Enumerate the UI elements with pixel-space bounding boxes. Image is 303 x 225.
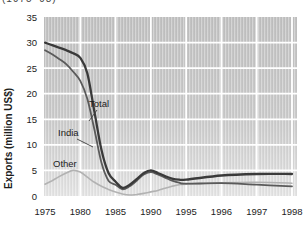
annotation-label-other: Other	[53, 158, 77, 169]
y-tick-label: 20	[26, 88, 37, 99]
y-axis-tick-labels: 05101520253035	[26, 12, 37, 202]
y-tick-label: 10	[26, 139, 37, 150]
exports-line-chart: 0510152025303519751980198519901995199619…	[0, 0, 303, 225]
y-tick-label: 30	[26, 37, 37, 48]
chart-figure: (1975–98) 051015202530351975198019851990…	[0, 0, 303, 225]
x-tick-label: 1990	[140, 206, 161, 217]
y-tick-label: 15	[26, 114, 37, 125]
x-tick-label: 1985	[105, 206, 126, 217]
y-axis-title: Exports (million US$)	[3, 88, 14, 189]
y-tick-label: 5	[32, 165, 37, 176]
x-tick-label: 1997	[246, 206, 267, 217]
x-tick-label: 1975	[34, 206, 55, 217]
x-tick-label: 1996	[211, 206, 232, 217]
x-tick-label: 1995	[176, 206, 197, 217]
annotation-label-total: Total	[89, 98, 109, 109]
x-tick-label: 1980	[70, 206, 91, 217]
y-tick-label: 0	[32, 191, 37, 202]
y-tick-label: 35	[26, 12, 37, 23]
y-tick-label: 25	[26, 63, 37, 74]
x-axis-tick-labels: 19751980198519901995199619971998	[34, 206, 302, 217]
annotation-label-india: India	[58, 127, 79, 138]
x-tick-label: 1998	[281, 206, 302, 217]
